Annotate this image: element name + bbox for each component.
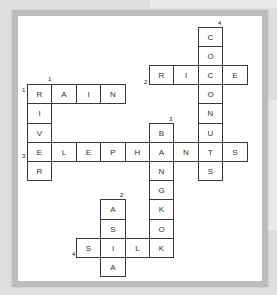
cell-letter: R xyxy=(37,90,43,99)
crossword-cell[interactable]: I xyxy=(100,238,126,258)
crossword-cell[interactable]: E xyxy=(27,142,52,162)
clue-number: 4 xyxy=(72,251,75,257)
clue-number: 1 xyxy=(22,87,25,93)
crossword-cell[interactable]: C xyxy=(198,65,223,85)
crossword-cell[interactable]: G xyxy=(149,180,174,200)
crossword-cell[interactable]: E xyxy=(222,65,248,85)
cell-letter: A xyxy=(110,263,115,272)
cell-letter: C xyxy=(208,33,214,42)
crossword-cell[interactable]: O xyxy=(149,219,174,239)
clue-number: 2 xyxy=(120,192,123,198)
cell-letter: N xyxy=(159,167,165,176)
cell-letter: I xyxy=(112,244,114,253)
clue-number: 1 xyxy=(48,76,51,82)
cell-letter: I xyxy=(87,90,89,99)
cell-letter: A xyxy=(61,90,66,99)
cell-letter: I xyxy=(185,71,187,80)
crossword-cell[interactable]: A xyxy=(149,142,174,162)
clue-number: 4 xyxy=(218,20,221,26)
cell-letter: S xyxy=(208,167,213,176)
crossword-cell[interactable]: I xyxy=(173,65,199,85)
cell-letter: H xyxy=(135,148,141,157)
cell-letter: U xyxy=(208,129,214,138)
crossword-cell[interactable]: L xyxy=(51,142,77,162)
crossword-cell[interactable]: A xyxy=(51,84,77,104)
cell-letter: G xyxy=(158,186,164,195)
crossword-cell[interactable]: I xyxy=(27,103,52,124)
cell-letter: O xyxy=(207,90,213,99)
cell-letter: A xyxy=(159,148,164,157)
cell-letter: O xyxy=(158,225,164,234)
cell-letter: K xyxy=(159,244,164,253)
cell-letter: B xyxy=(159,129,164,138)
cell-letter: K xyxy=(159,205,164,214)
crossword-cell[interactable]: H xyxy=(125,142,150,162)
cell-letter: N xyxy=(208,109,214,118)
crossword-cell[interactable]: T xyxy=(198,142,223,162)
crossword-cell[interactable]: S xyxy=(100,219,126,239)
crossword-cell[interactable]: K xyxy=(149,199,174,220)
crossword-cell[interactable]: N xyxy=(149,161,174,181)
cell-letter: T xyxy=(208,148,213,157)
cell-letter: E xyxy=(37,148,42,157)
crossword-cell[interactable]: A xyxy=(100,199,126,220)
crossword-cell[interactable]: R xyxy=(27,84,52,104)
crossword-cell[interactable]: O xyxy=(198,84,223,104)
cell-letter: N xyxy=(183,148,189,157)
cell-letter: O xyxy=(207,52,213,61)
crossword-cell[interactable]: N xyxy=(198,103,223,124)
cell-letter: E xyxy=(86,148,91,157)
cell-letter: L xyxy=(62,148,66,157)
crossword-cell[interactable]: A xyxy=(100,257,126,277)
crossword-cell[interactable]: S xyxy=(76,238,101,258)
cell-letter: S xyxy=(232,148,237,157)
cell-letter: R xyxy=(159,71,165,80)
crossword-cell[interactable]: U xyxy=(198,123,223,143)
crossword-cell[interactable]: N xyxy=(100,84,126,104)
crossword-cell[interactable]: E xyxy=(76,142,101,162)
clue-number: 3 xyxy=(169,116,172,122)
crossword-cell[interactable]: R xyxy=(149,65,174,85)
crossword-cell[interactable]: B xyxy=(149,123,174,143)
crossword-cell[interactable]: K xyxy=(149,238,174,258)
cell-letter: R xyxy=(37,167,43,176)
crossword-cell[interactable]: C xyxy=(198,27,223,47)
cell-letter: S xyxy=(110,225,115,234)
crossword-cell[interactable]: N xyxy=(173,142,199,162)
cell-letter: E xyxy=(232,71,237,80)
crossword-cell[interactable]: L xyxy=(125,238,150,258)
clue-number: 3 xyxy=(22,153,25,159)
cell-letter: C xyxy=(208,71,214,80)
cell-letter: I xyxy=(38,109,40,118)
crossword-cell[interactable]: O xyxy=(198,46,223,66)
cell-letter: S xyxy=(86,244,91,253)
crossword-cell[interactable]: S xyxy=(222,142,248,162)
crossword-cell[interactable]: V xyxy=(27,123,52,143)
background-streak xyxy=(150,0,277,8)
clue-number: 2 xyxy=(144,79,147,85)
cell-letter: A xyxy=(110,205,115,214)
cell-letter: L xyxy=(135,244,139,253)
background-streak xyxy=(268,100,277,230)
crossword-cell[interactable]: I xyxy=(76,84,101,104)
crossword-cell[interactable]: R xyxy=(27,161,52,181)
crossword-cell[interactable]: P xyxy=(100,142,126,162)
crossword-cell[interactable]: S xyxy=(198,161,223,181)
cell-letter: V xyxy=(37,129,42,138)
cell-letter: P xyxy=(110,148,115,157)
cell-letter: N xyxy=(110,90,116,99)
